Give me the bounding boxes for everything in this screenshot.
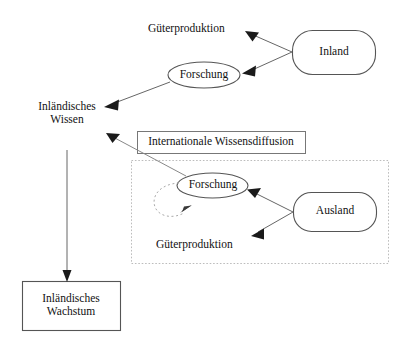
ausland-node-shape: [294, 193, 377, 232]
edge-ausland-to-forschung-ausland: [247, 188, 293, 212]
forschung-inland-ellipse: [168, 62, 240, 88]
edge-inland-to-forschung-inland: [242, 52, 292, 77]
forschung-ausland-ellipse: [177, 173, 248, 198]
diagram-canvas: Inland Ausland Inländisches Wachstum Inl…: [0, 0, 407, 351]
edge-inland-to-gueterproduktion: [245, 31, 292, 52]
gueterproduktion-inland-label: Güterproduktion: [148, 22, 225, 34]
inland-node-shape: [293, 31, 376, 75]
edge-wissen-to-wachstum: [63, 150, 72, 282]
inlaendisches-wachstum-box: [23, 282, 121, 331]
diagram-vector-layer: [0, 0, 407, 351]
gueterproduktion-ausland-label: Güterproduktion: [156, 238, 233, 250]
edge-forschung-inland-to-wissen: [104, 82, 170, 111]
edge-ausland-to-gueterproduktion-ausland: [251, 212, 293, 240]
wissensdiffusion-box: [138, 132, 306, 154]
